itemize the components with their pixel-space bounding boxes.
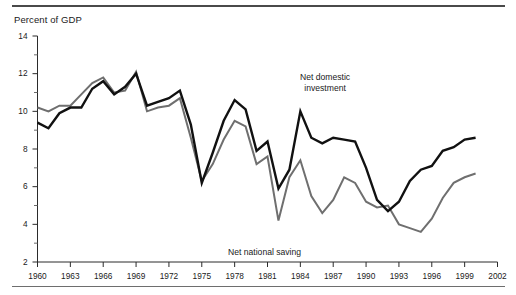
x-tick-label: 1984 — [283, 271, 317, 281]
y-tick-label: 6 — [8, 181, 28, 191]
x-tick-label: 2002 — [481, 271, 515, 281]
annotation-line-2: investment — [300, 83, 350, 94]
chart-figure: Percent of GDP Net domestic investment N… — [0, 0, 516, 295]
y-tick-label: 4 — [8, 219, 28, 229]
chart-series-layer — [38, 72, 476, 232]
x-tick-label: 1963 — [53, 271, 87, 281]
x-tick-label: 1975 — [185, 271, 219, 281]
annotation-net-national-saving: Net national saving — [228, 247, 301, 258]
annotation-line-1: Net national saving — [228, 247, 301, 258]
annotation-net-domestic-investment: Net domestic investment — [300, 72, 350, 94]
x-tick-label: 1987 — [316, 271, 350, 281]
x-tick-label: 1990 — [349, 271, 383, 281]
x-tick-label: 1999 — [448, 271, 482, 281]
x-tick-label: 1981 — [251, 271, 285, 281]
x-tick-label: 1996 — [415, 271, 449, 281]
y-tick-label: 12 — [8, 68, 28, 78]
annotation-line-1: Net domestic — [300, 72, 350, 83]
x-tick-label: 1993 — [382, 271, 416, 281]
x-tick-label: 1966 — [86, 271, 120, 281]
chart-axes — [33, 36, 498, 267]
x-tick-label: 1972 — [152, 271, 186, 281]
x-tick-label: 1969 — [119, 271, 153, 281]
x-tick-label: 1978 — [218, 271, 252, 281]
y-tick-label: 14 — [8, 31, 28, 41]
y-tick-label: 2 — [8, 257, 28, 267]
x-tick-label: 1960 — [21, 271, 55, 281]
y-tick-label: 10 — [8, 106, 28, 116]
y-tick-label: 8 — [8, 144, 28, 154]
